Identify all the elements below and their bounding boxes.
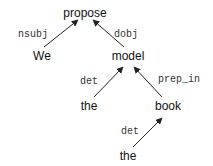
node-book: book (155, 99, 182, 113)
edge-nsubj (44, 20, 78, 47)
label-prep-in: prep_in (158, 74, 200, 85)
label-det-2: det (121, 126, 139, 137)
label-nsubj: nsubj (18, 29, 48, 40)
label-det: det (80, 76, 98, 87)
node-we: We (33, 49, 51, 63)
label-dobj: dobj (114, 29, 138, 40)
node-the-2: the (120, 149, 137, 163)
diagram-svg: propose We model the book the nsubj dobj… (0, 0, 213, 166)
node-the: the (81, 99, 98, 113)
node-model: model (112, 49, 145, 63)
node-propose: propose (63, 6, 107, 20)
dependency-tree-diagram: propose We model the book the nsubj dobj… (0, 0, 213, 166)
edge-det-the-model (94, 67, 123, 97)
